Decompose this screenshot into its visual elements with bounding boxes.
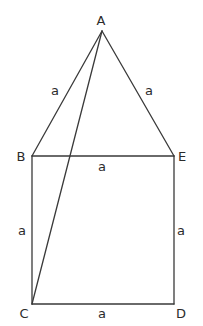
vertex-label-e: E xyxy=(178,149,186,164)
vertex-label-a: A xyxy=(97,13,106,28)
geometry-figure: A B E C D a a a a a a xyxy=(0,0,203,326)
side-label-bc: a xyxy=(18,223,26,238)
side-label-ae: a xyxy=(145,83,153,98)
side-label-ed: a xyxy=(177,223,185,238)
side-label-ab: a xyxy=(51,83,59,98)
side-label-be: a xyxy=(98,159,106,174)
vertex-label-b: B xyxy=(17,149,26,164)
segment-ac xyxy=(32,31,102,304)
side-label-cd: a xyxy=(98,306,106,321)
vertex-label-d: D xyxy=(176,306,186,321)
segment-ae xyxy=(102,31,174,156)
vertex-label-c: C xyxy=(19,306,28,321)
segment-ab xyxy=(32,31,102,156)
